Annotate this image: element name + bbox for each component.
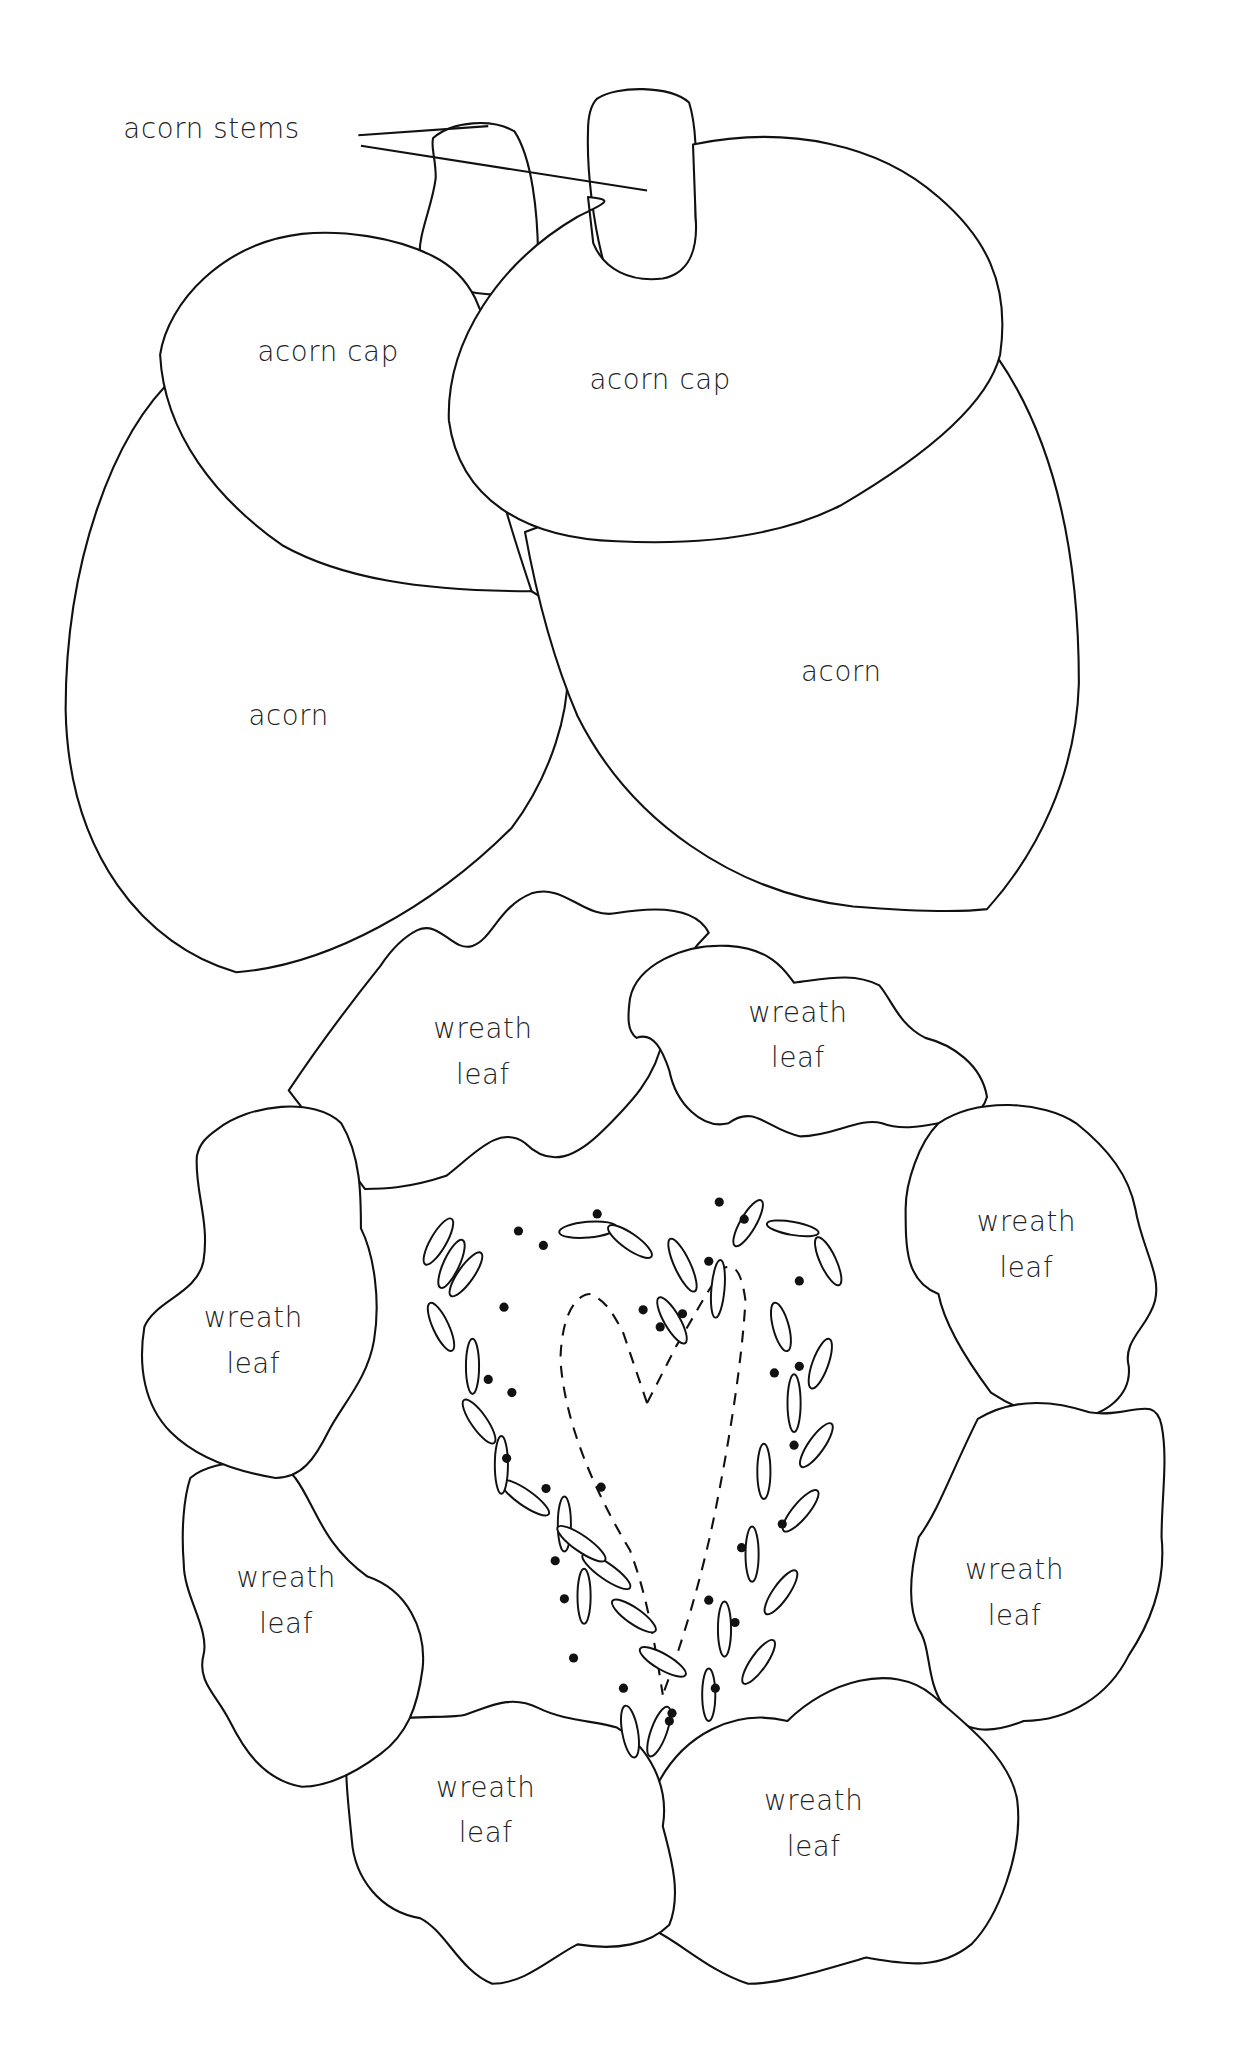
acorn-right-label: acorn	[801, 655, 881, 688]
wreath-leaf-label-2: wreath	[748, 996, 847, 1029]
wreath-leaf-label-8b: leaf	[226, 1347, 280, 1380]
wreath-leaf-label-6b: leaf	[459, 1816, 513, 1849]
stems-callout: acorn stems	[123, 112, 647, 191]
wreath-leaf-label-7b: leaf	[259, 1607, 313, 1640]
heart-petals	[418, 1196, 846, 1759]
acorn-left-label: acorn	[249, 699, 329, 732]
acorn-cap-left-label: acorn cap	[257, 335, 398, 368]
wreath-leaf-right-upper: wreath leaf	[906, 1105, 1157, 1419]
wreath-leaf-right-lower: wreath leaf	[911, 1403, 1164, 1730]
wreath-leaf-left-upper: wreath leaf	[142, 1107, 377, 1478]
wreath-leaf-label-7: wreath	[236, 1561, 335, 1594]
wreath-leaf-label-6: wreath	[436, 1771, 535, 1804]
acorn-stem-right	[588, 89, 696, 283]
wreath-leaf-label-8: wreath	[204, 1301, 303, 1334]
wreath-leaf-label-5b: leaf	[787, 1830, 841, 1863]
wreath-leaf-label-1b: leaf	[456, 1058, 510, 1091]
wreath-leaf-left-lower: wreath leaf	[183, 1462, 423, 1787]
wreath-leaf-label-4b: leaf	[988, 1599, 1042, 1632]
wreath-leaf-label-4: wreath	[965, 1553, 1064, 1586]
wreath-leaf-label-2b: leaf	[771, 1041, 825, 1074]
heart-motif	[418, 1196, 846, 1759]
wreath-leaf-label-1: wreath	[433, 1012, 532, 1045]
wreath-leaf-label-5: wreath	[764, 1784, 863, 1817]
wreath-leaf-label-3b: leaf	[999, 1251, 1053, 1284]
acorn-cap-right-label: acorn cap	[590, 363, 731, 396]
acorn-stems-label: acorn stems	[123, 112, 299, 145]
wreath-leaf-top-right: wreath leaf	[628, 946, 987, 1137]
pattern-sheet: acorn acorn acorn cap acorn cap acorn st…	[0, 0, 1239, 2060]
wreath-leaf-bottom-right: wreath leaf	[621, 1678, 1018, 1984]
wreath-leaf-label-3: wreath	[977, 1205, 1076, 1238]
